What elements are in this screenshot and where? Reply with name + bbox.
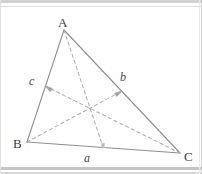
side-label-b: b xyxy=(120,71,126,83)
triangle-side-b xyxy=(64,30,180,153)
side-label-a: a xyxy=(84,152,90,164)
median-arrowhead-toward-side-b xyxy=(115,91,123,97)
side-label-c: c xyxy=(29,75,34,87)
median-from-vertex-a xyxy=(64,30,103,147)
vertex-label-c: C xyxy=(184,150,193,163)
geometry-figure: A B C a b c xyxy=(0,0,202,174)
vertex-label-a: A xyxy=(58,16,67,29)
midpoint-tick-side-a xyxy=(101,143,104,148)
vertex-label-b: B xyxy=(13,137,22,150)
median-arrowhead-toward-side-c xyxy=(45,86,53,92)
